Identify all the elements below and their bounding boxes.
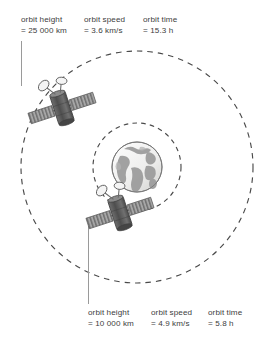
inner-orbit-speed-annotation: orbit speed = 4.9 km/s [151, 307, 192, 329]
outer-orbit-time-value: = 15.3 h [143, 25, 177, 36]
solar-panel-right [127, 197, 154, 215]
inner-orbit-time-annotation: orbit time = 5.8 h [208, 307, 242, 329]
outer-orbit-speed-label: orbit speed [84, 15, 125, 24]
solar-panel-right [69, 92, 96, 110]
inner-orbit-height-label: orbit height [88, 308, 129, 317]
footer-caption [0, 344, 271, 355]
inner-orbit-speed-value: = 4.9 km/s [151, 318, 192, 329]
inner-orbit-time-label: orbit time [208, 308, 242, 317]
outer-satellite [19, 66, 99, 136]
inner-orbit-height-value: = 10 000 km [88, 318, 134, 329]
outer-orbit-height-annotation: orbit height = 25 000 km [21, 14, 67, 36]
inner-orbit-speed-label: orbit speed [151, 308, 192, 317]
solar-panel-left [28, 106, 55, 124]
outer-orbit-speed-value: = 3.6 km/s [84, 25, 125, 36]
orbit-illustration [0, 0, 271, 355]
outer-orbit-speed-annotation: orbit speed = 3.6 km/s [84, 14, 125, 36]
outer-orbit-height-label: orbit height [21, 15, 62, 24]
inner-orbit-time-value: = 5.8 h [208, 318, 242, 329]
outer-orbit-height-value: = 25 000 km [21, 25, 67, 36]
diagram-canvas: orbit height = 25 000 km orbit speed = 3… [0, 0, 271, 355]
inner-orbit-height-annotation: orbit height = 10 000 km [88, 307, 134, 329]
outer-orbit-time-annotation: orbit time = 15.3 h [143, 14, 177, 36]
solar-panel-left [86, 211, 113, 229]
outer-orbit-time-label: orbit time [143, 15, 177, 24]
